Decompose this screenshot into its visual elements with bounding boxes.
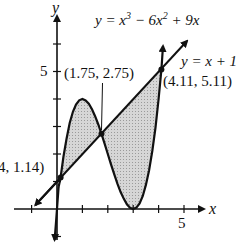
intersection-point-2 — [99, 131, 105, 137]
shaded-region-right — [102, 70, 162, 209]
line-equation-label: y = x + 1 — [181, 54, 237, 69]
leader-line — [102, 83, 103, 130]
intersection-point-1 — [58, 175, 64, 181]
point-label-3: (4.11, 5.11) — [163, 74, 232, 89]
curve-equation-label: y = x3 − 6x2 + 9x — [95, 13, 200, 28]
figure: y x 5 5 y = x3 − 6x2 + 9x y = x + 1 4, 1… — [0, 0, 251, 246]
curve-eq-part: − 6x — [131, 12, 163, 28]
curve-eq-part: + 9x — [168, 12, 200, 28]
intersection-point-3 — [158, 67, 164, 73]
x-tick-label-5: 5 — [178, 216, 186, 231]
point-label-1: 4, 1.14) — [0, 160, 44, 175]
y-tick-label-5: 5 — [40, 64, 48, 79]
point-label-2: (1.75, 2.75) — [64, 66, 134, 81]
x-axis-label: x — [209, 201, 216, 217]
curve-eq-part: y = x — [95, 12, 126, 28]
y-axis-label: y — [52, 0, 59, 16]
